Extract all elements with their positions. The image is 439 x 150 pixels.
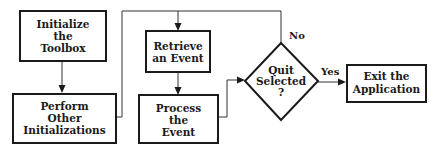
node-initialize-toolbox: Initialize the Toolbox [20,11,106,61]
edge-process-to-quit [218,77,245,118]
arrowhead-icon [59,85,66,93]
edge-quit-yes: Yes [318,66,346,86]
node-retrieve-event: Retrieve an Event [146,31,210,72]
arrowhead-icon [175,23,182,31]
node-label-line: Retrieve [153,40,203,52]
flowchart-diagram: No Yes Initialize the Toolbox Perform Ot… [0,0,439,150]
node-label-line: Initialize [37,18,90,30]
node-exit-application: Exit the Application [347,65,426,102]
node-label-line: Event [162,126,195,138]
node-label-line: ? [278,86,284,98]
node-quit-selected-decision: Quit Selected ? [245,43,318,120]
edge-label-yes: Yes [320,66,340,77]
node-label-line: Initializations [23,124,105,136]
arrowhead-icon [237,77,245,84]
node-label-line: an Event [152,52,204,64]
node-label-line: Toolbox [40,42,86,54]
edge-init-to-other [59,61,66,93]
node-label-line: the [53,30,72,42]
edge-label-no: No [289,30,305,41]
node-label-line: Application [352,83,421,95]
node-label-line: Other [48,112,82,124]
node-label-line: Exit the [364,70,410,82]
edge-retrieve-to-process [175,72,182,95]
arrowhead-icon [175,87,182,95]
node-label-line: the [169,114,188,126]
edge-quit-no: No [281,11,305,43]
node-process-event: Process the Event [139,95,218,143]
node-perform-other-initializations: Perform Other Initializations [13,94,116,143]
arrowhead-icon [338,79,346,86]
node-label-line: Perform [41,100,89,112]
node-label-line: Process [156,102,201,114]
